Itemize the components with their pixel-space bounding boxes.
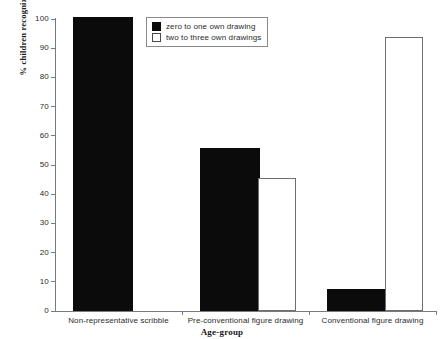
bar-series-container	[55, 19, 436, 311]
plot-area: % children recognizing 01020304050607080…	[55, 19, 436, 311]
y-tick-label: 70	[25, 101, 49, 112]
y-tick-label: 80	[25, 71, 49, 82]
legend-label: two to three own drawings	[166, 33, 261, 43]
legend-swatch-filled-square-icon	[152, 22, 161, 31]
y-tick-label: 60	[25, 130, 49, 141]
y-tick-label: 90	[25, 42, 49, 53]
x-category-label: Pre-conventional figure drawing	[182, 316, 309, 326]
legend-item-two-to-three: two to three own drawings	[152, 32, 261, 43]
legend-item-zero-to-one: zero to one own drawing	[152, 21, 261, 32]
bar-chart-figure: % children recognizing 01020304050607080…	[0, 0, 444, 339]
bar-zero-to-one	[73, 17, 133, 311]
bar-two-to-three	[385, 37, 423, 311]
x-tick-mark	[309, 311, 310, 315]
legend-swatch-open-square-icon	[152, 33, 161, 42]
x-axis-title: Age-group	[0, 327, 444, 337]
bar-zero-to-one	[200, 148, 260, 311]
x-tick-mark	[182, 311, 183, 315]
y-tick-label: 100	[25, 13, 49, 24]
bar-group	[55, 19, 182, 311]
x-category-label: Non-representative scribble	[55, 316, 182, 326]
x-category-label: Conventional figure drawing	[309, 316, 436, 326]
bar-two-to-three	[258, 178, 296, 311]
y-tick-label: 40	[25, 188, 49, 199]
y-tick-label: 0	[25, 305, 49, 316]
bar-group	[309, 19, 436, 311]
legend-label: zero to one own drawing	[166, 22, 255, 32]
bar-zero-to-one	[327, 289, 387, 311]
bar-group	[182, 19, 309, 311]
y-tick-label: 50	[25, 159, 49, 170]
y-tick-label: 30	[25, 217, 49, 228]
chart-legend: zero to one own drawing two to three own…	[146, 17, 268, 47]
y-tick-label: 10	[25, 276, 49, 287]
y-tick-label: 20	[25, 247, 49, 258]
x-tick-mark	[436, 311, 437, 315]
x-axis-line	[55, 311, 436, 312]
